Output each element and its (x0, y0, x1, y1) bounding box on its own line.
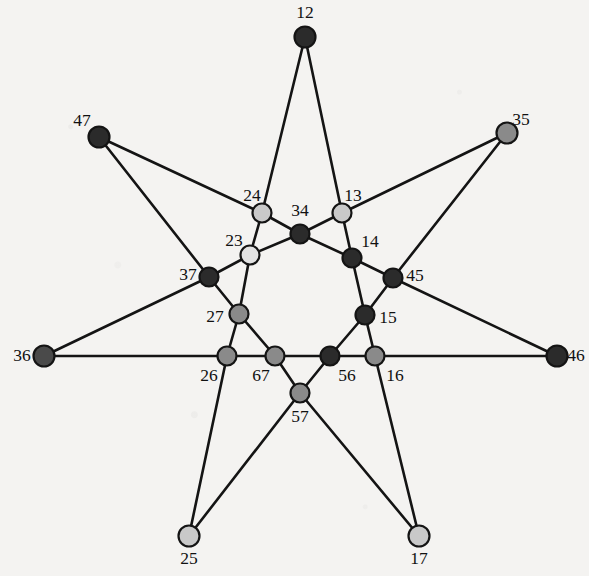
graph-node-label-13: 13 (344, 185, 362, 205)
graph-node-27[interactable] (230, 305, 249, 324)
graph-edge (393, 278, 557, 356)
graph-node-label-67: 67 (252, 365, 270, 385)
node-layer (34, 27, 568, 547)
graph-node-label-34: 34 (291, 200, 309, 220)
graph-node-16[interactable] (366, 347, 385, 366)
graph-node-label-46: 46 (567, 345, 585, 365)
graph-node-label-36: 36 (13, 345, 31, 365)
graph-node-13[interactable] (333, 204, 352, 223)
graph-node-label-56: 56 (338, 365, 356, 385)
graph-canvas: 1247353646251724133423143745271526675616… (0, 0, 589, 576)
graph-node-label-37: 37 (179, 264, 197, 284)
graph-node-46[interactable] (547, 346, 568, 367)
graph-node-label-25: 25 (180, 548, 198, 568)
graph-node-label-23: 23 (225, 230, 243, 250)
graph-node-label-57: 57 (291, 406, 309, 426)
graph-node-label-15: 15 (379, 307, 397, 327)
graph-node-23[interactable] (241, 246, 260, 265)
graph-node-label-12: 12 (296, 2, 314, 22)
graph-edge (189, 393, 300, 536)
graph-node-26[interactable] (218, 347, 237, 366)
graph-node-67[interactable] (266, 347, 285, 366)
edge-layer (44, 37, 557, 536)
graph-node-24[interactable] (253, 204, 272, 223)
graph-node-57[interactable] (291, 384, 310, 403)
graph-node-37[interactable] (200, 268, 219, 287)
graph-diagram: 1247353646251724133423143745271526675616… (0, 0, 589, 576)
graph-node-12[interactable] (295, 27, 316, 48)
graph-node-label-16: 16 (386, 365, 404, 385)
graph-node-label-27: 27 (206, 306, 224, 326)
graph-edge (99, 137, 262, 213)
graph-node-label-47: 47 (73, 110, 91, 130)
graph-node-34[interactable] (291, 225, 310, 244)
graph-node-56[interactable] (321, 347, 340, 366)
graph-edge (393, 133, 507, 278)
graph-node-label-35: 35 (512, 109, 530, 129)
graph-node-47[interactable] (89, 127, 110, 148)
graph-node-label-26: 26 (200, 365, 218, 385)
graph-edge (305, 37, 342, 213)
graph-node-25[interactable] (179, 526, 200, 547)
graph-node-17[interactable] (409, 526, 430, 547)
graph-node-label-17: 17 (410, 548, 428, 568)
graph-node-label-14: 14 (361, 231, 379, 251)
graph-edge (262, 37, 305, 213)
graph-node-label-24: 24 (243, 185, 261, 205)
graph-node-label-45: 45 (406, 265, 424, 285)
graph-edge (342, 133, 507, 213)
graph-node-14[interactable] (343, 249, 362, 268)
node-label-layer: 1247353646251724133423143745271526675616… (13, 2, 585, 568)
graph-edge (44, 277, 209, 356)
graph-node-36[interactable] (34, 346, 55, 367)
graph-node-15[interactable] (356, 306, 375, 325)
graph-edge (99, 137, 209, 277)
graph-node-45[interactable] (384, 269, 403, 288)
